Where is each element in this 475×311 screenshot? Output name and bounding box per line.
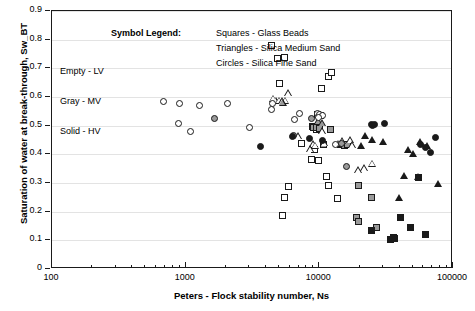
legend-fill-empty: Empty - LV xyxy=(60,66,104,76)
data-point-square xyxy=(279,212,286,219)
y-axis-tick-label: 0.9 xyxy=(2,5,42,14)
data-point-circle xyxy=(343,163,350,170)
data-point-triangle xyxy=(434,180,442,187)
data-point-square xyxy=(327,126,334,133)
x-axis-major-tick xyxy=(452,262,453,268)
data-point-circle xyxy=(371,121,378,128)
x-axis-minor-tick xyxy=(439,265,440,268)
data-point-circle xyxy=(432,134,439,141)
legend-title: Symbol Legend: xyxy=(111,28,181,38)
triangle-inner-fill xyxy=(369,161,375,166)
data-point-square xyxy=(276,80,283,87)
x-axis-minor-tick xyxy=(265,265,266,268)
data-point-circle xyxy=(319,137,326,144)
legend-fill-solid: Solid - HV xyxy=(60,126,101,136)
data-point-circle xyxy=(175,120,182,127)
x-axis-minor-tick xyxy=(305,265,306,268)
data-point-triangle xyxy=(357,142,365,149)
x-axis-minor-tick xyxy=(431,265,432,268)
x-axis-tick-label: 10000 xyxy=(288,272,348,282)
x-axis-tick-label: 1000 xyxy=(155,272,215,282)
symbol-legend: Symbol Legend: Squares - Glass Beads Tri… xyxy=(111,25,416,73)
x-axis-minor-tick xyxy=(422,265,423,268)
data-point-circle xyxy=(381,120,388,127)
data-point-square xyxy=(281,194,288,201)
x-axis-minor-tick xyxy=(144,265,145,268)
x-axis-minor-tick xyxy=(179,265,180,268)
data-point-triangle xyxy=(279,99,287,106)
x-axis-minor-tick xyxy=(412,265,413,268)
x-axis-minor-tick xyxy=(131,265,132,268)
data-point-circle xyxy=(176,100,183,107)
data-point-circle xyxy=(257,143,264,150)
data-point-triangle xyxy=(368,160,376,167)
x-axis-minor-tick xyxy=(115,265,116,268)
y-axis-tick xyxy=(45,125,50,126)
y-axis-tick-label: 0.1 xyxy=(2,234,42,243)
y-axis-tick-label: 0.2 xyxy=(2,206,42,215)
y-axis-tick xyxy=(45,182,50,183)
x-axis-tick-label: 100000 xyxy=(422,272,475,282)
x-axis-minor-tick xyxy=(172,265,173,268)
x-axis-tick-label: 100 xyxy=(21,272,81,282)
data-point-square xyxy=(325,182,332,189)
gridline xyxy=(52,154,451,155)
x-axis-minor-tick xyxy=(289,265,290,268)
triangle-inner-fill xyxy=(319,129,325,134)
triangle-inner-fill xyxy=(319,121,325,126)
data-point-triangle xyxy=(414,173,422,180)
x-axis-minor-tick xyxy=(312,265,313,268)
data-point-circle xyxy=(296,110,303,117)
x-axis-minor-tick xyxy=(248,265,249,268)
scatter-chart-figure: Saturation of water at break-through, Sw… xyxy=(0,0,475,311)
data-point-circle xyxy=(196,102,203,109)
triangle-inner-fill xyxy=(349,143,355,148)
x-axis-minor-tick xyxy=(298,265,299,268)
data-point-circle xyxy=(224,100,231,107)
legend-fill-gray: Gray - MV xyxy=(60,96,101,106)
data-point-circle xyxy=(338,140,345,147)
data-point-square xyxy=(355,218,362,225)
data-point-circle xyxy=(160,98,167,105)
x-axis-minor-tick xyxy=(382,265,383,268)
data-point-circle xyxy=(211,115,218,122)
x-axis-minor-tick xyxy=(399,265,400,268)
y-axis-tick-label: 0.4 xyxy=(2,148,42,157)
y-axis-tick xyxy=(45,67,50,68)
data-point-circle xyxy=(306,135,313,142)
y-axis-tick xyxy=(45,239,50,240)
x-axis-major-tick xyxy=(185,262,186,268)
y-axis-tick-label: 0.3 xyxy=(2,177,42,186)
y-axis-tick-label: 0.5 xyxy=(2,120,42,129)
x-axis-title: Peters - Flock stability number, Ns xyxy=(51,290,452,301)
data-point-square xyxy=(285,183,292,190)
y-axis-tick xyxy=(45,10,50,11)
y-axis-tick-label: 0.7 xyxy=(2,62,42,71)
data-point-triangle xyxy=(348,141,356,148)
triangle-inner-fill xyxy=(279,100,285,105)
x-axis-minor-tick xyxy=(155,265,156,268)
data-point-triangle xyxy=(395,194,403,201)
y-axis-tick-label: 0 xyxy=(2,263,42,272)
x-axis-major-tick xyxy=(51,262,52,268)
data-point-square xyxy=(391,235,398,242)
x-axis-minor-tick xyxy=(164,265,165,268)
data-point-triangle xyxy=(306,145,314,152)
data-point-triangle xyxy=(318,127,326,134)
gridline xyxy=(52,212,451,213)
gridline xyxy=(52,11,451,12)
gridline xyxy=(52,183,451,184)
data-point-triangle xyxy=(379,138,387,145)
data-point-square xyxy=(368,194,375,201)
data-point-triangle xyxy=(368,136,376,143)
x-axis-minor-tick xyxy=(446,265,447,268)
x-axis-minor-tick xyxy=(359,265,360,268)
data-point-circle xyxy=(427,149,434,156)
data-point-square xyxy=(422,231,429,238)
data-point-circle xyxy=(187,128,194,135)
data-point-square xyxy=(407,224,414,231)
x-axis-minor-tick xyxy=(91,265,92,268)
data-point-circle xyxy=(246,124,253,131)
x-axis-minor-tick xyxy=(225,265,226,268)
data-point-circle xyxy=(289,133,296,140)
